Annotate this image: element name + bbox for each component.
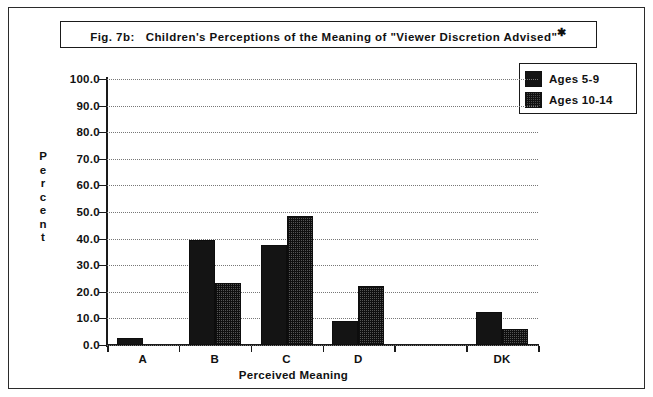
x-tick-label-DK: DK <box>493 353 510 365</box>
x-tick-1 <box>179 346 181 352</box>
y-tick-10.0 <box>99 318 106 319</box>
y-axis-labels: 100.090.080.070.060.050.040.030.020.010.… <box>40 79 100 345</box>
title-main: Children's Perceptions of the Meaning of… <box>146 31 558 43</box>
y-tick-40.0 <box>99 239 106 240</box>
y-tick-80.0 <box>99 132 106 133</box>
page-title: Fig. 7b: Children's Perceptions of the M… <box>90 26 567 43</box>
y-tick-90.0 <box>99 106 106 107</box>
y-tick-70.0 <box>99 159 106 160</box>
bar-D-series-1 <box>332 321 358 345</box>
y-tick-label-60.0: 60.0 <box>76 179 100 191</box>
plot-area <box>107 79 538 345</box>
y-tick-30.0 <box>99 265 106 266</box>
x-tick-5 <box>466 346 468 352</box>
y-tick-label-90.0: 90.0 <box>76 100 100 112</box>
chart-screenshot: Fig. 7b: Children's Perceptions of the M… <box>0 0 653 397</box>
bar-B-series-1 <box>189 240 215 345</box>
x-tick-3 <box>323 346 325 352</box>
y-tick-60.0 <box>99 185 106 186</box>
figure-title-box: Fig. 7b: Children's Perceptions of the M… <box>60 21 597 48</box>
y-tick-label-10.0: 10.0 <box>76 312 100 324</box>
bar-C-series-1 <box>261 245 287 345</box>
title-footnote-marker: ✱ <box>557 26 566 38</box>
x-tick-2 <box>251 346 253 352</box>
bar-A-series-1 <box>117 338 143 345</box>
x-tick-label-C: C <box>282 353 291 365</box>
x-tick-6 <box>538 346 540 352</box>
y-tick-50.0 <box>99 212 106 213</box>
y-tick-100.0 <box>99 79 106 80</box>
bar-DK-series-1 <box>476 312 502 345</box>
y-tick-label-30.0: 30.0 <box>76 259 100 271</box>
y-tick-20.0 <box>99 292 106 293</box>
y-tick-label-20.0: 20.0 <box>76 286 100 298</box>
y-tick-label-0.0: 0.0 <box>83 339 100 351</box>
x-axis-title: Perceived Meaning <box>0 369 653 381</box>
y-tick-0.0 <box>99 345 106 346</box>
bars-layer <box>107 79 538 345</box>
bar-C-series-2 <box>287 216 313 345</box>
y-tick-label-50.0: 50.0 <box>76 206 100 218</box>
bar-DK-series-2 <box>502 329 528 345</box>
y-tick-label-100.0: 100.0 <box>70 73 100 85</box>
y-tick-label-40.0: 40.0 <box>76 233 100 245</box>
x-tick-label-A: A <box>139 353 148 365</box>
x-tick-4 <box>394 346 396 352</box>
legend-label-ages-10-14: Ages 10-14 <box>549 94 613 106</box>
bar-D-series-2 <box>358 286 384 345</box>
legend-label-ages-5-9: Ages 5-9 <box>549 73 599 85</box>
title-prefix: Fig. 7b: <box>90 31 135 43</box>
x-tick-label-B: B <box>210 353 219 365</box>
x-axis-title-text: Perceived Meaning <box>239 369 348 381</box>
legend-item-ages-10-14: Ages 10-14 <box>525 89 631 110</box>
y-tick-label-70.0: 70.0 <box>76 153 100 165</box>
legend-item-ages-5-9: Ages 5-9 <box>525 68 631 89</box>
x-tick-label-D: D <box>354 353 363 365</box>
x-tick-0 <box>107 346 109 352</box>
bar-B-series-2 <box>215 283 241 346</box>
y-tick-label-80.0: 80.0 <box>76 126 100 138</box>
